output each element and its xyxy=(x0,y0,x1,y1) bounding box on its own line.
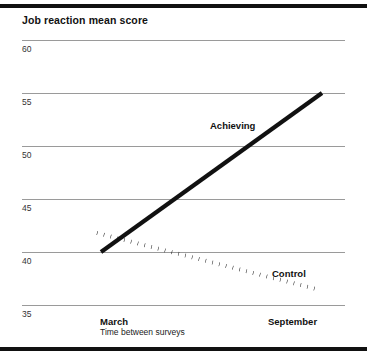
gridline-55 xyxy=(22,93,345,94)
gridline-40 xyxy=(22,252,345,253)
chart-figure: Job reaction mean score 60 55 50 45 40 3… xyxy=(0,0,367,359)
y-axis-tick-45: 45 xyxy=(22,203,31,213)
gridline-60 xyxy=(22,40,345,41)
gridline-45 xyxy=(22,199,345,200)
y-axis-tick-40: 40 xyxy=(22,256,31,266)
gridline-50 xyxy=(22,146,345,147)
series-label-control: Control xyxy=(272,268,306,279)
y-axis-tick-35: 35 xyxy=(22,309,31,319)
y-axis-tick-60: 60 xyxy=(22,44,31,54)
plot-area: Job reaction mean score 60 55 50 45 40 3… xyxy=(22,14,352,334)
series-lines xyxy=(22,14,352,334)
y-axis-tick-55: 55 xyxy=(22,97,31,107)
series-label-achieving: Achieving xyxy=(210,120,255,131)
x-axis-tick-march: March xyxy=(100,316,128,327)
gridline-35 xyxy=(22,305,345,306)
bottom-divider-rule xyxy=(0,347,367,351)
chart-title: Job reaction mean score xyxy=(22,14,148,26)
series-line-achieving xyxy=(101,93,322,252)
series-line-control xyxy=(97,233,320,290)
x-axis-title: Time between surveys xyxy=(100,327,185,337)
x-axis-tick-september: September xyxy=(268,316,317,327)
y-axis-tick-50: 50 xyxy=(22,150,31,160)
top-divider-rule xyxy=(0,4,367,8)
